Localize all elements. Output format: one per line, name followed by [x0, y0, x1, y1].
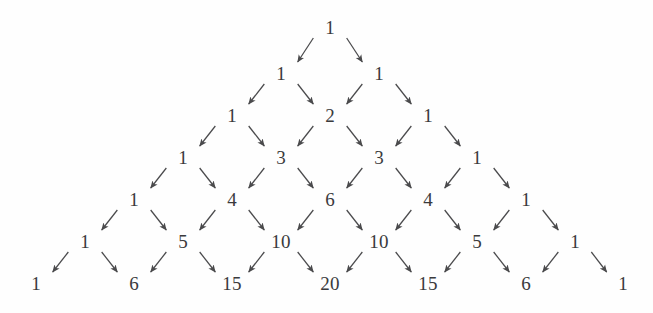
triangle-number: 1: [374, 64, 384, 83]
pascals-triangle-figure: 111121133114641151010511615201561: [0, 0, 653, 313]
triangle-number: 15: [418, 274, 437, 293]
triangle-number: 6: [325, 190, 335, 209]
triangle-number: 3: [276, 148, 286, 167]
triangle-number: 5: [178, 232, 188, 251]
triangle-number: 1: [521, 190, 531, 209]
number-layer: 111121133114641151010511615201561: [0, 0, 653, 313]
triangle-number: 3: [374, 148, 384, 167]
triangle-number: 1: [80, 232, 90, 251]
triangle-number: 1: [276, 64, 286, 83]
triangle-number: 10: [271, 232, 290, 251]
triangle-number: 4: [423, 190, 433, 209]
triangle-number: 1: [325, 18, 335, 37]
triangle-number: 1: [570, 232, 580, 251]
triangle-number: 10: [369, 232, 388, 251]
triangle-number: 1: [31, 274, 41, 293]
triangle-number: 6: [521, 274, 531, 293]
triangle-number: 6: [129, 274, 139, 293]
triangle-number: 1: [423, 106, 433, 125]
triangle-number: 4: [227, 190, 237, 209]
triangle-number: 1: [227, 106, 237, 125]
triangle-number: 5: [472, 232, 482, 251]
triangle-number: 2: [325, 106, 335, 125]
triangle-number: 1: [129, 190, 139, 209]
triangle-number: 1: [472, 148, 482, 167]
triangle-number: 20: [320, 274, 339, 293]
triangle-number: 15: [222, 274, 241, 293]
triangle-number: 1: [618, 274, 628, 293]
triangle-number: 1: [178, 148, 188, 167]
